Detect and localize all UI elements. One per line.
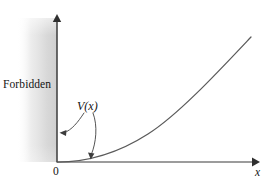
origin-label: 0 bbox=[53, 166, 59, 178]
figure-canvas bbox=[0, 0, 267, 185]
vx-to-axis-arrowhead bbox=[60, 130, 67, 136]
potential-function-label: V(x) bbox=[77, 100, 98, 112]
forbidden-region-label: Forbidden bbox=[3, 79, 51, 91]
x-axis-label: x bbox=[255, 167, 260, 179]
vx-to-curve-arrow bbox=[92, 113, 96, 154]
vx-to-axis-arrow bbox=[64, 113, 84, 133]
potential-energy-figure: Forbidden V(x) 0 x bbox=[0, 0, 267, 185]
